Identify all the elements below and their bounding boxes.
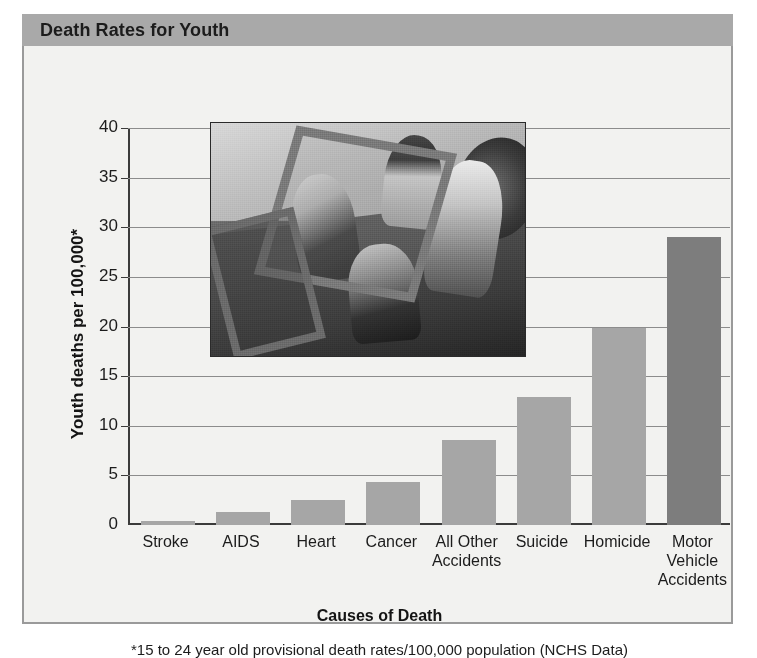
y-tick-label: 0 — [109, 514, 118, 534]
y-tick-label: 25 — [99, 266, 118, 286]
y-tick-mark — [121, 475, 128, 476]
x-tick-label-motor-vehicle-accidents: MotorVehicleAccidents — [647, 532, 738, 589]
bar-homicide[interactable] — [592, 328, 646, 526]
bar-aids[interactable] — [216, 512, 270, 525]
photo-grain-overlay — [211, 123, 525, 356]
bar-suicide[interactable] — [517, 397, 571, 525]
chart-footnote: *15 to 24 year old provisional death rat… — [24, 641, 735, 658]
x-tick-label-line: Accidents — [647, 570, 738, 589]
bar-cancer[interactable] — [366, 482, 420, 525]
y-tick-mark — [121, 426, 128, 427]
y-axis-tick-labels: 4035302520151050 — [72, 128, 118, 525]
teens-in-convertible-photo — [210, 122, 526, 357]
x-axis-category-labels: StrokeAIDSHeartCancerAll OtherAccidentsS… — [128, 532, 730, 596]
y-tick-mark — [121, 178, 128, 179]
y-tick-label: 5 — [109, 464, 118, 484]
bar-motor-vehicle-accidents[interactable] — [667, 237, 721, 525]
y-tick-label: 30 — [99, 216, 118, 236]
y-tick-label: 15 — [99, 365, 118, 385]
chart-panel: Youth deaths per 100,000* 40353025201510… — [22, 46, 733, 624]
y-tick-label: 10 — [99, 415, 118, 435]
bar-heart[interactable] — [291, 500, 345, 525]
bar-all-other-accidents[interactable] — [442, 440, 496, 525]
y-tick-mark — [121, 327, 128, 328]
x-tick-label-line: Vehicle — [647, 551, 738, 570]
y-tick-label: 40 — [99, 117, 118, 137]
y-axis-title-wrap: Youth deaths per 100,000* — [46, 128, 72, 525]
y-tick-label: 35 — [99, 167, 118, 187]
y-tick-label: 20 — [99, 316, 118, 336]
y-tick-mark — [121, 227, 128, 228]
y-tick-mark — [121, 277, 128, 278]
page-title: Death Rates for Youth — [40, 20, 229, 41]
y-tick-mark — [121, 128, 128, 129]
x-tick-label-line: Motor — [647, 532, 738, 551]
chart-title-bar: Death Rates for Youth — [22, 14, 733, 46]
y-tick-mark — [121, 376, 128, 377]
x-axis-title: Causes of Death — [24, 607, 735, 625]
bar-stroke[interactable] — [141, 521, 195, 525]
x-tick-label-line: Accidents — [421, 551, 512, 570]
